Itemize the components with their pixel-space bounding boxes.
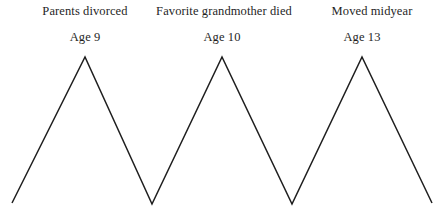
zigzag-polyline xyxy=(12,57,432,204)
diagram-canvas: Parents divorced Age 9 Favorite grandmot… xyxy=(0,0,445,216)
zigzag-line-graphic xyxy=(0,0,445,216)
